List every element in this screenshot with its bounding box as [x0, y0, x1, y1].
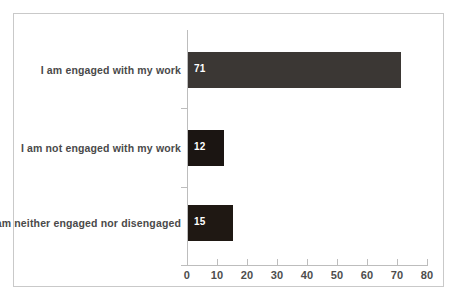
value-axis-tick — [397, 259, 398, 265]
category-axis-tick — [181, 108, 187, 109]
bar-value-label: 12 — [194, 141, 206, 153]
chart-figure: 0 10 20 30 40 50 60 70 80 I am engaged w… — [0, 0, 460, 305]
value-axis-tick — [307, 259, 308, 265]
value-axis-tick — [427, 259, 428, 265]
bar-value-label: 71 — [194, 63, 206, 75]
category-label-not-engaged: I am not engaged with my work — [0, 142, 181, 154]
value-axis-tick-label: 80 — [407, 269, 447, 281]
category-label-engaged: I am engaged with my work — [0, 64, 181, 76]
value-axis-tick — [187, 259, 188, 265]
bar-not-engaged[interactable]: 12 — [188, 130, 224, 166]
value-axis-tick — [367, 259, 368, 265]
value-axis-tick — [217, 259, 218, 265]
bar-value-label: 15 — [194, 216, 206, 228]
value-axis-tick — [277, 259, 278, 265]
value-axis-tick — [247, 259, 248, 265]
bar-neither[interactable]: 15 — [188, 205, 233, 241]
category-axis-tick — [181, 265, 187, 266]
value-axis-tick — [337, 259, 338, 265]
category-axis-tick — [181, 187, 187, 188]
value-axis-line — [187, 265, 428, 266]
category-label-neither: I am neither engaged nor disengaged — [0, 217, 181, 229]
bar-engaged[interactable]: 71 — [188, 52, 401, 88]
